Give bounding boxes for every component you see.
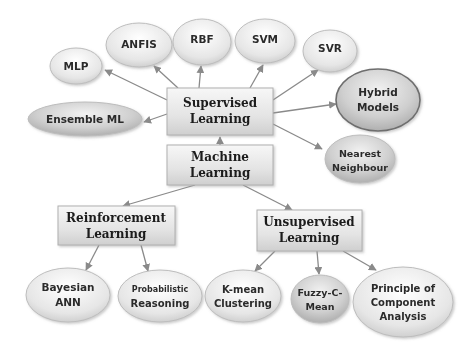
label-ensemble-ml: Ensemble ML bbox=[46, 113, 124, 125]
node-bayesian-ann: Bayesian ANN bbox=[26, 268, 110, 322]
box-reinforcement-learning: Reinforcement Learning bbox=[58, 206, 175, 245]
label-rbf: RBF bbox=[190, 33, 213, 45]
node-ensemble-ml: Ensemble ML bbox=[28, 102, 142, 136]
label-pca-line2: Component bbox=[371, 297, 436, 308]
edge-sup-ensemble bbox=[144, 114, 167, 122]
label-supervised-line1: Supervised bbox=[183, 96, 258, 110]
label-mlp: MLP bbox=[64, 60, 89, 72]
label-reinforcement-line1: Reinforcement bbox=[66, 211, 166, 225]
label-anfis: ANFIS bbox=[121, 38, 157, 50]
node-principle-component-analysis: Principle of Component Analysis bbox=[353, 267, 453, 337]
edge-ml-reinforcement bbox=[123, 185, 195, 206]
label-kmean-line1: K-mean bbox=[222, 284, 264, 295]
box-unsupervised-learning: Unsupervised Learning bbox=[257, 210, 362, 251]
node-hybrid-models: Hybrid Models bbox=[336, 69, 420, 131]
node-nearest-neighbour: Nearest Neighbour bbox=[325, 135, 395, 183]
label-svm: SVM bbox=[252, 33, 278, 45]
box-supervised-learning: Supervised Learning bbox=[167, 88, 273, 135]
node-svr: SVR bbox=[303, 30, 357, 72]
edge-sup-svr bbox=[273, 70, 318, 100]
label-root-line2: Learning bbox=[190, 166, 251, 180]
node-rbf: RBF bbox=[173, 19, 231, 65]
edge-sup-mlp bbox=[105, 70, 167, 100]
label-supervised-line2: Learning bbox=[190, 112, 251, 126]
node-mlp: MLP bbox=[50, 48, 102, 84]
edge-sup-nearest bbox=[273, 124, 322, 149]
label-bayesian-line2: ANN bbox=[55, 296, 81, 308]
edge-rl-probabilistic bbox=[141, 245, 148, 271]
label-fuzzy-line2: Mean bbox=[305, 301, 334, 312]
label-probabilistic-line1: Probabilistic bbox=[132, 285, 189, 294]
label-nearest-line1: Nearest bbox=[339, 148, 382, 159]
edge-sup-rbf bbox=[199, 66, 201, 88]
edge-ml-unsupervised bbox=[243, 185, 292, 210]
label-svr: SVR bbox=[318, 42, 342, 54]
node-anfis: ANFIS bbox=[106, 23, 172, 67]
edge-rl-bayesian bbox=[86, 245, 99, 270]
node-svm: SVM bbox=[235, 19, 295, 63]
edge-sup-hybrid bbox=[273, 104, 336, 113]
box-machine-learning: Machine Learning bbox=[167, 145, 273, 185]
label-hybrid-line2: Models bbox=[357, 101, 399, 113]
edge-sup-anfis bbox=[154, 66, 178, 88]
label-kmean-line2: Clustering bbox=[214, 298, 272, 309]
label-nearest-line2: Neighbour bbox=[332, 162, 388, 173]
edge-ul-pca bbox=[343, 251, 376, 270]
node-kmean-clustering: K-mean Clustering bbox=[205, 270, 281, 322]
label-root-line1: Machine bbox=[191, 150, 249, 164]
label-pca-line1: Principle of bbox=[371, 283, 436, 294]
node-probabilistic-reasoning: Probabilistic Reasoning bbox=[118, 270, 202, 322]
label-probabilistic-line2: Reasoning bbox=[131, 298, 190, 309]
label-pca-line3: Analysis bbox=[380, 311, 427, 322]
ml-taxonomy-diagram: MLP ANFIS RBF SVM SVR Hybrid Models Near… bbox=[0, 0, 476, 352]
edge-sup-svm bbox=[250, 65, 263, 88]
label-reinforcement-line2: Learning bbox=[86, 227, 147, 241]
label-hybrid-line1: Hybrid bbox=[358, 86, 397, 98]
label-unsupervised-line1: Unsupervised bbox=[263, 215, 355, 229]
label-bayesian-line1: Bayesian bbox=[41, 281, 94, 293]
label-fuzzy-line1: Fuzzy-C- bbox=[297, 287, 342, 298]
label-unsupervised-line2: Learning bbox=[279, 231, 340, 245]
edge-ul-fuzzy bbox=[317, 251, 319, 274]
edge-ul-kmean bbox=[255, 251, 275, 271]
node-fuzzy-c-mean: Fuzzy-C- Mean bbox=[291, 275, 349, 323]
